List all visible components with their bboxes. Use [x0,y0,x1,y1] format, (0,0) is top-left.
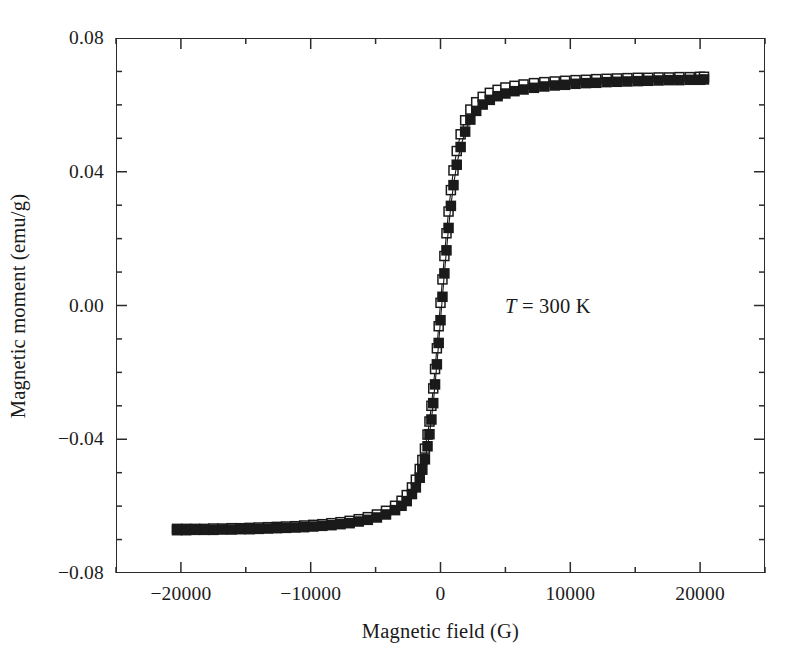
x-axis-title: Magnetic field (G) [116,620,765,643]
plot-frame [116,38,765,573]
annotation-symbol: T [505,295,517,317]
x-tick-label: 20000 [675,583,725,605]
temperature-annotation: T = 300 K [505,295,591,318]
magnetization-curve-figure: −0.08−0.040.000.040.08 −20000−1000001000… [0,0,789,669]
x-tick-label: −10000 [280,583,341,605]
y-axis-title-wrap: Magnetic moment (emu/g) [0,38,36,573]
x-tick-label: −20000 [150,583,211,605]
y-axis-title: Magnetic moment (emu/g) [7,193,30,417]
x-tick-label: 0 [436,583,446,605]
x-tick-label: 10000 [545,583,595,605]
annotation-text: = 300 K [517,295,591,317]
